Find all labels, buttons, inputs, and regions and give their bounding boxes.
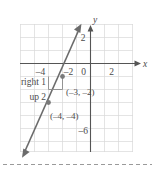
x-tick-label: 2 bbox=[109, 67, 114, 77]
y-tick-label: –6 bbox=[78, 126, 89, 136]
coordinate-plane: –4 –2 0 2 2 –6 x y right 1 up 2 (–3, –2)… bbox=[0, 0, 155, 169]
y-axis-label: y bbox=[92, 15, 98, 25]
rise-annotation-label: up 2 bbox=[29, 92, 46, 102]
x-tick-label: 0 bbox=[81, 67, 86, 77]
point-label: (–4, –4) bbox=[50, 111, 79, 121]
y-tick-label: 2 bbox=[81, 33, 86, 43]
x-tick-label: –4 bbox=[35, 67, 46, 77]
x-axis-label: x bbox=[142, 59, 148, 69]
graph-figure: –4 –2 0 2 2 –6 x y right 1 up 2 (–3, –2)… bbox=[0, 0, 155, 169]
data-point bbox=[46, 100, 51, 105]
x-axis bbox=[20, 61, 141, 67]
point-label: (–3, –2) bbox=[66, 87, 95, 97]
run-annotation-label: right 1 bbox=[21, 77, 46, 87]
x-tick-label: –2 bbox=[63, 67, 74, 77]
